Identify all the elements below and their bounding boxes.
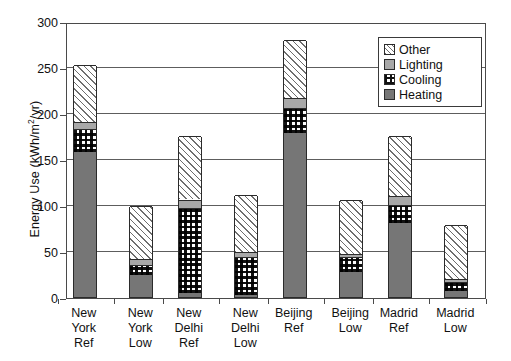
bar-segment-lighting[interactable] [235,252,257,258]
legend-label: Lighting [399,58,443,72]
x-axis-label-line: Beijing [265,306,323,321]
x-axis-label-line: Ref [370,321,428,336]
stacked-bar[interactable] [444,226,468,298]
legend-label: Heating [399,88,442,102]
stacked-bar[interactable] [388,137,412,298]
bar-slot [220,24,273,298]
x-axis-tick-mark [324,299,325,304]
y-axis-tick-label: 300 [0,16,58,30]
bar-segment-heating[interactable] [389,223,411,297]
y-axis-tick-label: 0 [0,292,58,306]
legend-swatch-other-icon [384,44,395,55]
bar-segment-other[interactable] [445,225,467,278]
bar-segment-other[interactable] [130,206,152,259]
chart-figure: Energy Use (kWh/m2/yr) 05010015020025030… [0,0,511,361]
bar-segment-lighting[interactable] [284,98,306,108]
legend-swatch-lighting-icon [384,59,395,70]
legend: OtherLightingCoolingHeating [378,37,482,107]
legend-item-cooling[interactable]: Cooling [384,72,475,87]
bar-segment-other[interactable] [340,200,362,253]
bar-segment-other[interactable] [179,136,201,199]
bar-slot [164,24,217,298]
bar-segment-other[interactable] [74,65,96,122]
x-axis-category-label: NewDelhiRef [160,306,218,351]
bar-segment-cooling[interactable] [74,129,96,152]
x-axis-label-line: Low [426,321,484,336]
bar-segment-cooling[interactable] [445,282,467,290]
x-axis-label-line: Delhi [160,321,218,336]
stacked-bar[interactable] [178,137,202,298]
bar-segment-lighting[interactable] [340,254,362,258]
bar-segment-lighting[interactable] [445,279,467,283]
x-axis-tick-mark [429,299,430,304]
x-axis-label-line: York [55,321,113,336]
bar-segment-heating[interactable] [130,275,152,297]
legend-swatch-cooling-icon [384,74,395,85]
x-axis-tick-mark [163,299,164,304]
bar-segment-cooling[interactable] [389,205,411,223]
legend-item-other[interactable]: Other [384,42,475,57]
bar-slot [325,24,378,298]
bar-segment-lighting[interactable] [74,122,96,128]
x-axis-label-line: New [55,306,113,321]
x-axis-category-label: BeijingRef [265,306,323,336]
bar-segment-other[interactable] [235,195,257,252]
bar-segment-lighting[interactable] [389,196,411,205]
stacked-bar[interactable] [129,207,153,298]
x-axis-tick-mark [373,299,374,304]
x-axis-label-line: Ref [265,321,323,336]
legend-item-heating[interactable]: Heating [384,87,475,102]
x-axis-label-line: New [160,306,218,321]
bar-segment-lighting[interactable] [130,259,152,265]
bar-slot [115,24,168,298]
stacked-bar[interactable] [339,201,363,298]
x-axis-category-label: MadridRef [370,306,428,336]
legend-swatch-heating-icon [384,89,395,100]
bar-slot [269,24,322,298]
bar-segment-other[interactable] [389,136,411,196]
x-axis-tick-mark [486,299,487,304]
bar-segment-heating[interactable] [179,293,201,297]
y-axis-title-post: /yr) [28,100,42,118]
bar-segment-heating[interactable] [340,272,362,297]
bar-segment-cooling[interactable] [340,257,362,272]
x-axis-tick-mark [58,299,59,304]
y-axis-tick-mark [60,299,66,300]
bar-segment-cooling[interactable] [130,265,152,275]
stacked-bar[interactable] [283,41,307,298]
y-axis-title-pre: Energy Use (kWh/m [28,123,42,237]
x-axis-label-line: Ref [55,336,113,351]
x-axis-label-line: Low [216,336,274,351]
x-axis-label-line: Madrid [370,306,428,321]
stacked-bar[interactable] [73,66,97,298]
bar-segment-cooling[interactable] [235,257,257,295]
bar-segment-heating[interactable] [284,133,306,297]
x-axis-category-label: MadridLow [426,306,484,336]
x-axis-tick-mark [114,299,115,304]
bar-segment-lighting[interactable] [179,200,201,208]
stacked-bar[interactable] [234,196,258,298]
legend-label: Other [399,43,430,57]
bar-segment-cooling[interactable] [179,208,201,294]
bar-segment-cooling[interactable] [284,108,306,133]
bar-segment-heating[interactable] [235,295,257,297]
x-axis-label-line: Ref [160,336,218,351]
bar-segment-heating[interactable] [74,152,96,297]
legend-label: Cooling [399,73,441,87]
y-axis-title-superscript: 2 [26,119,36,124]
y-axis-title: Energy Use (kWh/m2/yr) [26,49,42,289]
legend-item-lighting[interactable]: Lighting [384,57,475,72]
bar-slot [59,24,112,298]
bar-segment-other[interactable] [284,40,306,98]
x-axis-category-label: NewYorkRef [55,306,113,351]
x-axis-tick-mark [219,299,220,304]
x-axis-tick-mark [268,299,269,304]
bar-segment-heating[interactable] [445,291,467,297]
x-axis-label-line: Madrid [426,306,484,321]
